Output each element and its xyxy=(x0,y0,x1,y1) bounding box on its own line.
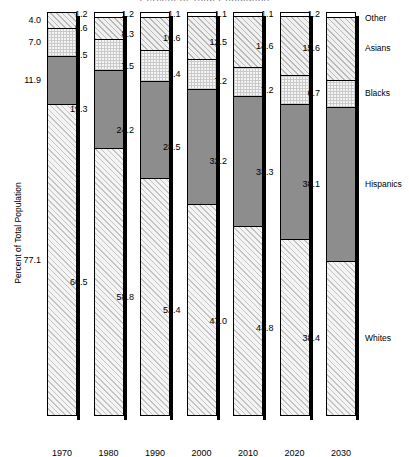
value-label-blacks-2020: 7.2 xyxy=(236,85,274,95)
bar-column-2000[interactable] xyxy=(187,12,217,416)
x-axis-label-2020: 2020 xyxy=(284,448,304,457)
value-label-asians-2000: 10.6 xyxy=(143,33,181,43)
value-label-whites-2000: 52.4 xyxy=(143,305,181,315)
value-label-asians-2010: 12.5 xyxy=(189,37,227,47)
value-label-other-2010: 1.1 xyxy=(189,9,227,19)
value-label-hispanics-1980: 19.3 xyxy=(50,104,88,114)
value-label-asians-1990: 8.3 xyxy=(96,29,134,39)
value-label-blacks-2030: 6.7 xyxy=(282,88,320,98)
legend-label-blacks: Blacks xyxy=(365,88,390,98)
value-label-hispanics-1970: 11.9 xyxy=(3,75,41,85)
x-axis-label-2030: 2030 xyxy=(331,448,351,457)
value-label-other-1980: 1.2 xyxy=(50,9,88,19)
value-label-whites-1970: 77.1 xyxy=(3,255,41,265)
value-label-blacks-2010: 7.2 xyxy=(189,76,227,86)
segment-whites-1990[interactable] xyxy=(140,178,170,416)
segment-whites-2010[interactable] xyxy=(233,226,263,416)
value-label-whites-2030: 38.4 xyxy=(282,333,320,343)
bar-column-2020[interactable] xyxy=(280,12,310,416)
bar-stack xyxy=(47,12,77,416)
segment-hispanics-1970[interactable] xyxy=(47,56,77,104)
legend-label-hispanics: Hispanics xyxy=(365,179,402,189)
value-label-hispanics-2010: 32.2 xyxy=(189,156,227,166)
value-label-whites-2020: 43.8 xyxy=(236,323,274,333)
legend-label-asians: Asians xyxy=(365,43,391,53)
bar-stack xyxy=(94,12,124,416)
segment-whites-1980[interactable] xyxy=(94,148,124,417)
segment-hispanics-2030[interactable] xyxy=(326,107,356,261)
bar-column-1980[interactable] xyxy=(94,12,124,416)
x-axis-label-1980: 1980 xyxy=(98,448,118,457)
value-label-whites-1990: 58.8 xyxy=(96,292,134,302)
bar-stack xyxy=(233,12,263,416)
segment-blacks-2030[interactable] xyxy=(326,80,356,107)
stacked-bar-chart: Percent of Total Population Percent of T… xyxy=(0,0,409,457)
segment-hispanics-2010[interactable] xyxy=(233,96,263,226)
bar-column-2030[interactable] xyxy=(326,12,356,416)
bar-stack xyxy=(326,12,356,416)
segment-whites-2030[interactable] xyxy=(326,261,356,416)
value-label-asians-2020: 14.6 xyxy=(236,41,274,51)
bar-shadow xyxy=(263,16,266,420)
segment-hispanics-1990[interactable] xyxy=(140,81,170,179)
bar-shadow xyxy=(77,16,80,420)
value-label-asians-1970: 4.0 xyxy=(3,15,41,25)
value-label-other-1990: 1.2 xyxy=(96,9,134,19)
plot-area: 4.07.011.977.119701.25.67.519.366.519801… xyxy=(0,12,409,416)
segment-hispanics-1980[interactable] xyxy=(94,70,124,148)
value-label-blacks-2000: 7.4 xyxy=(143,69,181,79)
bar-shadow xyxy=(356,16,359,420)
legend-label-whites: Whites xyxy=(365,333,391,343)
legend-label-other: Other xyxy=(365,13,386,23)
bar-stack xyxy=(280,12,310,416)
value-label-whites-1980: 66.5 xyxy=(50,277,88,287)
value-label-asians-2030: 15.6 xyxy=(282,43,320,53)
value-label-hispanics-2020: 33.3 xyxy=(236,167,274,177)
segment-asians-2030[interactable] xyxy=(326,17,356,80)
value-label-other-2030: 1.2 xyxy=(282,9,320,19)
value-label-other-2000: 1.1 xyxy=(143,9,181,19)
x-axis-label-2000: 2000 xyxy=(191,448,211,457)
segment-whites-1970[interactable] xyxy=(47,104,77,415)
chart-title: Percent of Total Population xyxy=(0,0,409,1)
x-axis-label-2010: 2010 xyxy=(238,448,258,457)
bar-column-2010[interactable] xyxy=(233,12,263,416)
value-label-blacks-1970: 7.0 xyxy=(3,37,41,47)
bar-column-1970[interactable] xyxy=(47,12,77,416)
segment-whites-2020[interactable] xyxy=(280,239,310,416)
value-label-other-2020: 1.1 xyxy=(236,9,274,19)
segment-whites-2000[interactable] xyxy=(187,204,217,416)
value-label-asians-1980: 5.6 xyxy=(50,23,88,33)
bar-shadow xyxy=(310,16,313,420)
value-label-whites-2010: 47.0 xyxy=(189,316,227,326)
x-axis-label-1970: 1970 xyxy=(52,448,72,457)
x-axis-label-1990: 1990 xyxy=(145,448,165,457)
value-label-hispanics-2000: 28.5 xyxy=(143,142,181,152)
value-label-hispanics-2030: 38.1 xyxy=(282,179,320,189)
segment-hispanics-2020[interactable] xyxy=(280,104,310,239)
segment-hispanics-2000[interactable] xyxy=(187,89,217,204)
value-label-hispanics-1990: 24.2 xyxy=(96,125,134,135)
bar-shadow xyxy=(124,16,127,420)
bar-stack xyxy=(187,12,217,416)
value-label-blacks-1980: 7.5 xyxy=(50,50,88,60)
value-label-blacks-1990: 7.5 xyxy=(96,61,134,71)
